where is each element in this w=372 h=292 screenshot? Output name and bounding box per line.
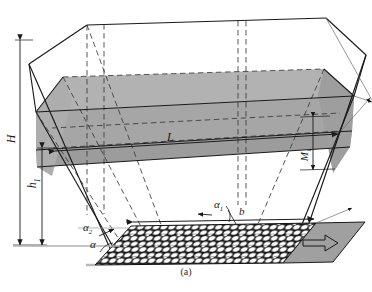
label-alpha1-sub: 1 — [220, 205, 223, 212]
label-h1-sub: 1 — [33, 179, 42, 183]
label-M1-base: M — [298, 152, 310, 161]
label-L: L — [167, 131, 174, 143]
figure-diagram — [0, 0, 372, 292]
label-b: b — [239, 206, 245, 217]
label-h1-base: h — [25, 182, 39, 188]
gravel-riprap-bed — [95, 223, 316, 265]
label-h1: h1 — [26, 179, 41, 189]
label-alpha1: α1 — [214, 199, 223, 213]
label-alpha: α — [90, 239, 96, 250]
dimension-b — [133, 219, 314, 222]
label-alpha2: α2 — [83, 222, 92, 236]
label-M1: M1 — [299, 149, 313, 162]
label-alpha2-sub: 2 — [89, 228, 92, 235]
figure-caption: (a) — [0, 266, 372, 277]
label-H: H — [5, 135, 17, 144]
label-M1-sub: 1 — [305, 149, 312, 152]
